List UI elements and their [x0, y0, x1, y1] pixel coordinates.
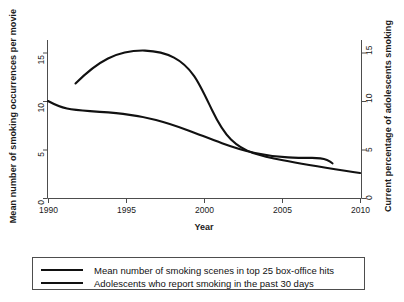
y-tick-right-10: 10 [364, 85, 374, 103]
y-tick-right-15: 15 [364, 37, 374, 55]
x-tick-1995: 1995 [107, 205, 147, 215]
left-axis-ticks [43, 53, 48, 199]
legend-label-smoking-scenes: Mean number of smoking scenes in top 25 … [94, 265, 334, 276]
legend-line-icon [41, 282, 83, 284]
chart-figure: Mean number of smoking occurrences per m… [0, 0, 404, 302]
series-line-adolescent-smoking [48, 101, 333, 163]
chart-legend: Mean number of smoking scenes in top 25 … [32, 257, 365, 290]
y-axis-label-right: Current percentage of adolescents smokin… [383, 6, 393, 226]
x-tick-1990: 1990 [29, 205, 69, 215]
y-tick-left-10: 10 [36, 103, 46, 121]
x-axis-label: Year [47, 222, 361, 232]
y-tick-left-5: 5 [36, 152, 46, 170]
y-tick-right-5: 5 [364, 134, 374, 152]
x-tick-2005: 2005 [263, 205, 303, 215]
legend-label-adolescent-smoking: Adolescents who report smoking in the pa… [94, 278, 314, 289]
legend-line-icon [41, 269, 83, 271]
y-axis-label-left: Mean number of smoking occurrences per m… [8, 6, 18, 226]
right-axis-ticks [362, 53, 367, 199]
x-tick-2010: 2010 [341, 205, 381, 215]
y-tick-right-0: 0 [364, 182, 374, 200]
legend-item-smoking-scenes: Mean number of smoking scenes in top 25 … [41, 263, 334, 277]
series-line-smoking-scenes [76, 51, 361, 173]
x-tick-2000: 2000 [185, 205, 225, 215]
legend-item-adolescent-smoking: Adolescents who report smoking in the pa… [41, 276, 314, 290]
y-tick-left-15: 15 [36, 55, 46, 73]
x-axis-ticks [49, 199, 361, 204]
